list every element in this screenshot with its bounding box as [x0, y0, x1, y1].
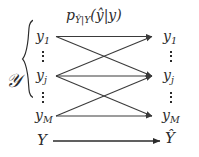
- right-node-yj-subscript: j: [171, 74, 174, 85]
- channel-transition-diagram: pŶ|Y(ŷ|y) 𝒴 y1 yj yM y1 yj yM Y Ŷ: [0, 0, 199, 157]
- left-node-yM: yM: [35, 108, 53, 122]
- kernel-subscript: Ŷ|Y: [75, 14, 90, 25]
- right-node-y1-base: y: [163, 28, 171, 44]
- bottom-target-Yhat: Ŷ: [165, 131, 175, 146]
- left-ellipsis-lower: [41, 89, 44, 103]
- right-node-yj: yj: [163, 68, 174, 82]
- left-ellipsis-upper: [41, 48, 44, 62]
- right-ellipsis-lower: [169, 89, 172, 103]
- right-node-yM-subscript: M: [170, 114, 180, 125]
- left-node-y1: y1: [36, 29, 50, 43]
- kernel-arguments: (ŷ|y): [90, 7, 121, 23]
- left-node-yj: yj: [36, 68, 47, 82]
- transition-edges: [56, 37, 152, 117]
- left-node-yj-base: y: [36, 67, 44, 83]
- left-node-yM-subscript: M: [43, 114, 53, 125]
- alphabet-brace: [23, 21, 33, 98]
- left-node-y1-subscript: 1: [44, 35, 50, 46]
- right-node-y1-subscript: 1: [171, 35, 177, 46]
- alphabet-set-symbol: 𝒴: [6, 71, 21, 90]
- left-node-y1-base: y: [36, 28, 44, 44]
- right-node-yj-base: y: [163, 67, 171, 83]
- bottom-source-Y: Y: [37, 133, 47, 148]
- right-node-yM-base: y: [162, 107, 170, 123]
- right-node-yM: yM: [162, 108, 180, 122]
- left-node-yM-base: y: [35, 107, 43, 123]
- right-ellipsis-upper: [169, 48, 172, 62]
- kernel-p-symbol: p: [66, 7, 75, 23]
- right-node-y1: y1: [163, 29, 177, 43]
- left-node-yj-subscript: j: [44, 74, 47, 85]
- transition-kernel-label: pŶ|Y(ŷ|y): [66, 8, 122, 22]
